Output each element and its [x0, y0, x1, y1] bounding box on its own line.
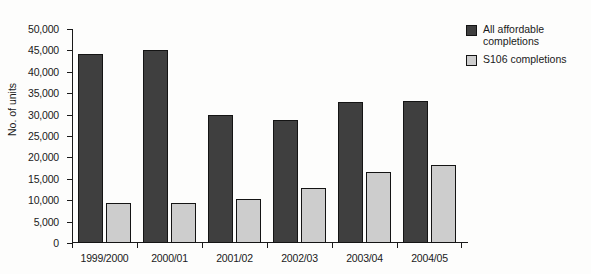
- legend-swatch-icon: [466, 25, 477, 36]
- x-axis-tick: [332, 243, 333, 248]
- y-axis-tick-label: 5,000: [34, 216, 59, 228]
- y-axis-tick-label: 50,000: [28, 23, 59, 35]
- bar: [171, 203, 196, 243]
- bar: [301, 188, 326, 243]
- legend-swatch-icon: [466, 55, 477, 66]
- x-axis-tick: [461, 243, 462, 248]
- y-axis-tick-label: 45,000: [28, 44, 59, 56]
- y-axis-label: No. of units: [6, 83, 18, 136]
- x-axis-tick-label: 2002/03: [281, 252, 318, 264]
- y-axis-tick-label: 20,000: [28, 151, 59, 163]
- legend-label: S106 completions: [483, 54, 566, 66]
- x-axis-tick: [137, 243, 138, 248]
- x-axis-tick-label: 2001/02: [216, 252, 253, 264]
- bar-group: 1999/2000: [72, 29, 137, 243]
- bar-group: 2001/02: [202, 29, 267, 243]
- bar: [338, 102, 363, 243]
- bar-group: 2000/01: [137, 29, 202, 243]
- bar-group: 2003/04: [332, 29, 397, 243]
- y-axis-tick-label: 30,000: [28, 109, 59, 121]
- y-axis-tick-label: 0: [53, 237, 59, 249]
- x-axis-tick-label: 2000/01: [151, 252, 188, 264]
- legend-item-all-affordable-completions: All affordable completions: [466, 24, 588, 47]
- x-axis-tick-label: 2004/05: [411, 252, 448, 264]
- x-axis-tick: [72, 243, 73, 248]
- bar-chart-figure: No. of units 05,00010,00015,00020,00025,…: [0, 0, 591, 274]
- x-axis-tick: [397, 243, 398, 248]
- bar-groups: 1999/20002000/012001/022002/032003/04200…: [72, 29, 462, 243]
- bar: [431, 165, 456, 243]
- legend-label: All affordable completions: [483, 24, 588, 47]
- bar: [106, 203, 131, 243]
- bar: [78, 54, 103, 243]
- bar-group: 2004/05: [397, 29, 462, 243]
- bar: [403, 101, 428, 243]
- y-axis-tick-label: 25,000: [28, 130, 59, 142]
- x-axis-tick-label: 1999/2000: [81, 252, 129, 264]
- plot-area: 05,00010,00015,00020,00025,00030,00035,0…: [72, 29, 462, 243]
- bar: [236, 199, 261, 243]
- clipped-title-remnant: [18, 0, 448, 5]
- y-axis-tick-label: 35,000: [28, 87, 59, 99]
- bar: [208, 115, 233, 243]
- x-axis-tick: [202, 243, 203, 248]
- y-axis-tick-label: 10,000: [28, 194, 59, 206]
- y-axis-tick-label: 15,000: [28, 173, 59, 185]
- bar-group: 2002/03: [267, 29, 332, 243]
- chart-legend: All affordable completions S106 completi…: [466, 24, 588, 66]
- legend-item-s106-completions: S106 completions: [466, 54, 588, 66]
- bar: [366, 172, 391, 243]
- x-axis-tick: [267, 243, 268, 248]
- x-axis-tick-label: 2003/04: [346, 252, 383, 264]
- bar: [143, 50, 168, 243]
- y-axis-tick-label: 40,000: [28, 66, 59, 78]
- bar: [273, 120, 298, 243]
